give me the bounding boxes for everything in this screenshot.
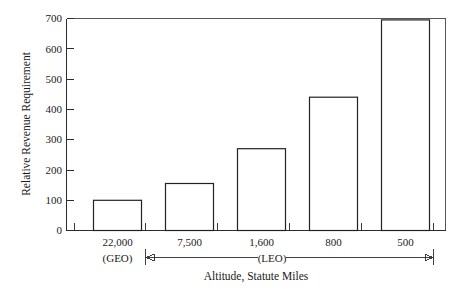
bar-800 [310,97,358,230]
y-tick-label-0: 0 [57,224,63,236]
y-axis-title: Relative Revenue Requirement [20,51,33,196]
geo-label: (GEO) [103,252,133,265]
x-tick-label-7500: 7,500 [177,236,202,248]
y-tick-label-300: 300 [46,133,63,145]
bar-22000 [94,200,142,230]
bar-500 [382,20,430,231]
leo-label: (LEO) [258,252,287,265]
y-tick-label-600: 600 [46,43,63,55]
y-tick-label-700: 700 [46,12,63,24]
x-tick-label-800: 800 [325,236,342,248]
bar-7500 [166,184,214,231]
y-tick-label-100: 100 [46,194,63,206]
bar-1600 [238,149,286,231]
x-tick-label-22000: 22,000 [102,236,133,248]
x-axis-title: Altitude, Statute Miles [204,270,309,283]
y-tick-label-200: 200 [46,164,63,176]
x-tick-label-500: 500 [397,236,414,248]
x-tick-label-1600: 1,600 [249,236,274,248]
y-tick-label-400: 400 [46,103,63,115]
y-tick-label-500: 500 [46,73,63,85]
bar-chart: 700 600 500 400 300 200 100 0 Relative R… [0,0,470,289]
chart-page: 700 600 500 400 300 200 100 0 Relative R… [0,0,470,289]
